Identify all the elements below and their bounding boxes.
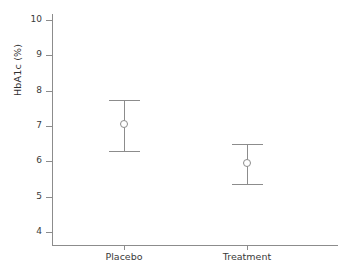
y-tick-label: 8	[14, 86, 42, 95]
y-tick-mark	[46, 55, 52, 56]
y-tick-mark	[46, 161, 52, 162]
errorbar-upper-cap	[109, 100, 140, 101]
y-tick-mark	[46, 91, 52, 92]
y-tick-label: 7	[14, 121, 42, 130]
errorbar-upper-cap	[232, 144, 263, 145]
data-point-marker	[243, 159, 251, 167]
y-axis-line	[52, 14, 53, 246]
y-tick-mark	[46, 197, 52, 198]
y-tick-label: 9	[14, 50, 42, 59]
y-tick-mark	[46, 232, 52, 233]
errorbar-lower-cap	[232, 184, 263, 185]
chart-figure: HbA1c (%) 10987654 PlaceboTreatment	[0, 0, 343, 276]
y-tick-mark	[46, 20, 52, 21]
y-tick-mark	[46, 126, 52, 127]
x-axis-line	[52, 245, 338, 246]
x-tick-mark	[124, 245, 125, 250]
x-tick-label-placebo: Placebo	[105, 252, 142, 262]
x-tick-label-treatment: Treatment	[223, 252, 271, 262]
y-tick-label: 4	[14, 227, 42, 236]
y-tick-label: 6	[14, 156, 42, 165]
x-tick-mark	[247, 245, 248, 250]
y-tick-label: 10	[14, 15, 42, 24]
data-point-marker	[120, 120, 128, 128]
y-tick-label: 5	[14, 192, 42, 201]
errorbar-lower-cap	[109, 151, 140, 152]
